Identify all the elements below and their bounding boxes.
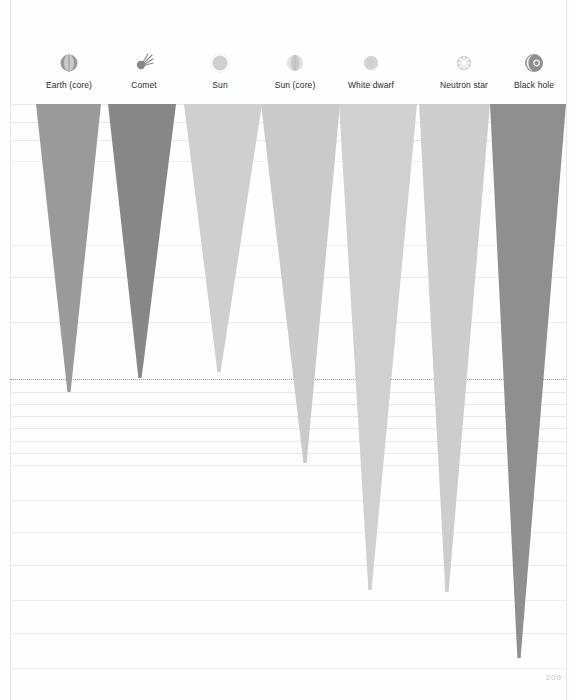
earth-core-icon [58,52,80,74]
neutron-star-icon [453,52,475,74]
legend: Earth (core)CometSunSun (core)White dwar… [0,0,576,104]
cone-sun-core [261,104,340,463]
cone-comet [108,104,176,378]
legend-item-label: Black hole [486,80,576,90]
legend-item-black-hole[interactable]: Black hole [486,52,576,90]
sun-icon [209,52,231,74]
cone-sun [184,104,262,372]
page-canvas: Earth (core)CometSunSun (core)White dwar… [0,0,576,700]
legend-item-white-dwarf[interactable]: White dwarf [323,52,419,90]
cone-neutron-star [419,104,490,592]
sun-core-icon [284,52,306,74]
comet-icon [133,52,155,74]
white-dwarf-icon [360,52,382,74]
cone-earth-core [36,104,101,392]
cone-black-hole [490,104,566,658]
legend-item-label: White dwarf [323,80,419,90]
cone-white-dwarf [339,104,417,590]
black-hole-icon [523,52,545,74]
gravity-well-cones [0,0,576,700]
